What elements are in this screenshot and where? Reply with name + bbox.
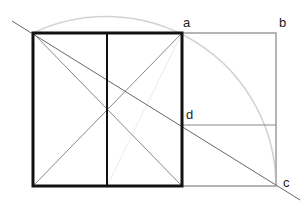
label-b: b	[279, 16, 286, 29]
long-diagonal	[12, 21, 300, 200]
label-a: a	[183, 16, 190, 29]
construction-arc	[33, 17, 276, 185]
label-c: c	[283, 176, 290, 189]
golden-rectangle-diagram	[0, 0, 305, 207]
golden-extension-rect	[182, 33, 276, 186]
label-d: d	[186, 108, 193, 121]
faint-construction-line	[107, 33, 182, 186]
